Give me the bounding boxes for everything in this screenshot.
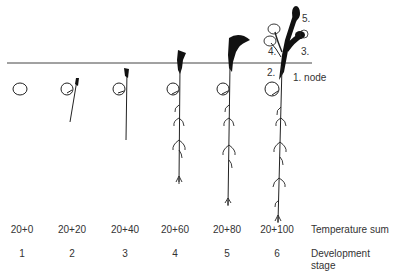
plant-development-diagram [0, 0, 399, 278]
plant-stage-5 [217, 35, 250, 206]
node-4-label: 4. [268, 46, 276, 57]
plant-stage-6 [264, 6, 308, 223]
temperature-sum-3: 20+40 [100, 224, 150, 235]
plant-stage-4 [167, 50, 186, 184]
temperature-sum-4: 20+60 [150, 224, 200, 235]
development-stage-1: 1 [0, 248, 47, 259]
development-stage-label-line2: stage [311, 260, 370, 272]
development-stage-3: 3 [100, 248, 150, 259]
development-stage-2: 2 [47, 248, 97, 259]
temperature-sum-5: 20+80 [202, 224, 252, 235]
temperature-sum-label: Temperature sum [311, 224, 389, 236]
development-stage-label: Development stage [311, 248, 370, 272]
plant-stage-3 [113, 68, 129, 140]
node-1-label: 1. node [293, 72, 326, 83]
temperature-sum-1: 20+0 [0, 224, 47, 235]
node-5-label: 5. [302, 13, 310, 24]
node-2-label: 2. [267, 67, 275, 78]
development-stage-4: 4 [150, 248, 200, 259]
plant-stage-2 [61, 78, 79, 122]
development-stage-label-line1: Development [311, 248, 370, 260]
development-stage-5: 5 [202, 248, 252, 259]
temperature-sum-2: 20+20 [47, 224, 97, 235]
plant-stage-1 [13, 83, 27, 95]
temperature-sum-6: 20+100 [252, 224, 302, 235]
development-stage-6: 6 [252, 248, 302, 259]
node-3-label: 3. [301, 46, 309, 57]
